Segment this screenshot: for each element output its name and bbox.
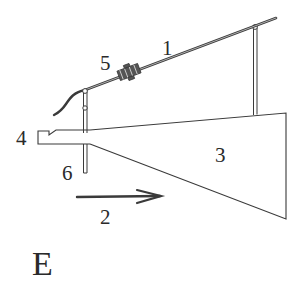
left-post bbox=[83, 89, 88, 173]
label-part-4: 4 bbox=[16, 126, 27, 150]
figure-label: E bbox=[32, 245, 53, 282]
diagram-figure: 1 5 4 3 6 2 E bbox=[0, 0, 298, 283]
notched-front-piece bbox=[38, 130, 90, 144]
right-support-post bbox=[253, 25, 258, 115]
tapered-plate bbox=[90, 113, 286, 219]
label-part-6: 6 bbox=[62, 161, 73, 185]
rod-clamp bbox=[116, 61, 142, 84]
diagram-canvas: 1 5 4 3 6 2 E bbox=[0, 0, 298, 283]
direction-arrow bbox=[77, 190, 161, 203]
label-part-5: 5 bbox=[100, 51, 111, 75]
label-part-1: 1 bbox=[162, 36, 173, 60]
label-part-2: 2 bbox=[100, 205, 111, 229]
label-part-3: 3 bbox=[215, 143, 226, 167]
